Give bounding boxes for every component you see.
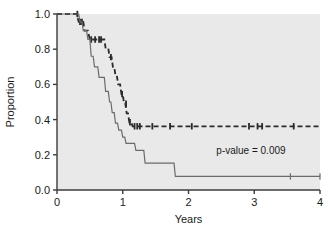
chart-canvas: 0.00.20.40.60.81.001234YearsProportionp-…: [0, 0, 332, 228]
y-tick-label: 0.4: [35, 114, 50, 126]
y-tick-label: 0.0: [35, 184, 50, 196]
y-tick-label: 0.8: [35, 43, 50, 55]
p-value-annotation: p-value = 0.009: [216, 145, 286, 156]
y-tick-label: 0.6: [35, 78, 50, 90]
x-tick-label: 0: [54, 196, 60, 208]
y-tick-label: 1.0: [35, 8, 50, 20]
x-tick-label: 3: [251, 196, 257, 208]
x-tick-label: 4: [317, 196, 323, 208]
x-axis-title: Years: [175, 213, 203, 225]
y-tick-label: 0.2: [35, 149, 50, 161]
x-tick-label: 1: [120, 196, 126, 208]
y-axis-title: Proportion: [4, 77, 16, 128]
x-tick-label: 2: [185, 196, 191, 208]
kaplan-meier-figure: 0.00.20.40.60.81.001234YearsProportionp-…: [0, 0, 332, 228]
